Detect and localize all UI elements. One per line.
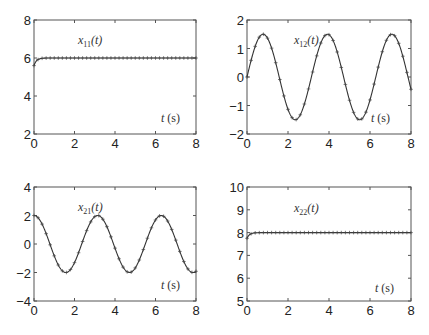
x-tick-label: 8 bbox=[192, 136, 199, 151]
ticks: 024682468 bbox=[24, 13, 200, 151]
time-axis-label: t (s) bbox=[375, 281, 394, 295]
y-tick-label: 6 bbox=[237, 271, 244, 286]
y-tick-label: −4 bbox=[16, 294, 31, 309]
x-tick-label: 8 bbox=[192, 303, 199, 318]
y-tick-label: 4 bbox=[24, 89, 31, 104]
x-tick-label: 2 bbox=[71, 136, 78, 151]
time-axis-label: t (s) bbox=[371, 111, 390, 125]
y-tick-label: 8 bbox=[237, 226, 244, 241]
x-tick-label: 0 bbox=[243, 136, 250, 151]
y-tick-label: −2 bbox=[229, 127, 244, 142]
x-tick-label: 4 bbox=[111, 136, 118, 151]
annotation-label: x21(t) bbox=[77, 200, 103, 216]
y-tick-label: 2 bbox=[24, 127, 31, 142]
y-tick-label: 5 bbox=[237, 294, 244, 309]
data-curve bbox=[32, 56, 198, 67]
y-tick-label: 0 bbox=[24, 237, 31, 252]
x-tick-label: 0 bbox=[243, 303, 250, 318]
subplot-x12: 02468−2−1012 x12(t) t (s) bbox=[229, 13, 414, 151]
x-tick-label: 8 bbox=[407, 303, 414, 318]
x-tick-label: 6 bbox=[366, 303, 373, 318]
y-tick-label: −1 bbox=[229, 99, 244, 114]
y-tick-label: 1 bbox=[237, 42, 244, 57]
plus-markers bbox=[32, 56, 198, 67]
y-tick-label: −2 bbox=[16, 266, 31, 281]
data-curve bbox=[32, 214, 198, 275]
time-axis-label: t (s) bbox=[161, 111, 180, 125]
x-tick-label: 6 bbox=[152, 303, 159, 318]
x-tick-label: 2 bbox=[71, 303, 78, 318]
x-tick-label: 4 bbox=[325, 136, 332, 151]
y-tick-label: 4 bbox=[24, 180, 31, 195]
x-tick-label: 2 bbox=[284, 136, 291, 151]
data-curve bbox=[245, 231, 413, 240]
x-tick-label: 6 bbox=[152, 136, 159, 151]
annotation-label: x12(t) bbox=[293, 33, 319, 49]
y-tick-label: 0 bbox=[237, 70, 244, 85]
subplot-x22: 024685678910 x22(t) t (s) bbox=[230, 180, 415, 318]
subplot-x11: 024682468 x11(t) t (s) bbox=[24, 13, 200, 151]
y-tick-label: 10 bbox=[230, 180, 244, 195]
annotation-label: x11(t) bbox=[77, 33, 102, 49]
ticks: 02468−2−1012 bbox=[229, 13, 414, 151]
y-tick-label: 8 bbox=[24, 13, 31, 28]
y-tick-label: 6 bbox=[24, 51, 31, 66]
data-curve bbox=[245, 32, 413, 121]
x-tick-label: 2 bbox=[284, 303, 291, 318]
x-tick-label: 4 bbox=[325, 303, 332, 318]
y-tick-label: 7 bbox=[237, 248, 244, 263]
y-tick-label: 9 bbox=[237, 203, 244, 218]
y-tick-label: 2 bbox=[24, 209, 31, 224]
ticks: 024685678910 bbox=[230, 180, 415, 318]
figure: 024682468 x11(t) t (s) 02468−2−1012 x12(… bbox=[0, 0, 429, 335]
y-tick-label: 2 bbox=[237, 13, 244, 28]
ticks: 02468−4−2024 bbox=[16, 180, 199, 318]
time-axis-label: t (s) bbox=[161, 278, 180, 292]
plus-markers bbox=[32, 214, 198, 275]
x-tick-label: 0 bbox=[30, 303, 37, 318]
x-tick-label: 6 bbox=[366, 136, 373, 151]
annotation-label: x22(t) bbox=[293, 201, 319, 217]
x-tick-label: 4 bbox=[111, 303, 118, 318]
subplot-x21: 02468−4−2024 x21(t) t (s) bbox=[16, 180, 199, 318]
x-tick-label: 0 bbox=[30, 136, 37, 151]
x-tick-label: 8 bbox=[407, 136, 414, 151]
